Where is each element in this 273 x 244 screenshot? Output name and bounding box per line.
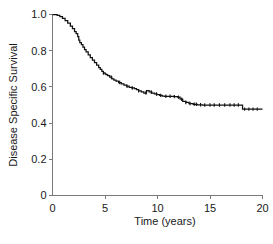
x-tick-label-1: 5: [102, 202, 108, 214]
y-axis-title: Disease Specific Survival: [7, 43, 19, 167]
x-axis-title: Time (years): [134, 215, 195, 227]
censor-tick-marks: [103, 71, 257, 111]
x-tick-label-4: 20: [256, 202, 268, 214]
y-tick-label-0: 0: [40, 189, 46, 201]
y-tick-label-5: 1.0: [31, 8, 46, 20]
y-axis-tick-marks: [49, 15, 53, 196]
x-tick-label-0: 0: [49, 202, 55, 214]
y-axis-tick-labels: 00.20.40.60.81.0: [31, 8, 46, 201]
x-axis-tick-labels: 05101520: [49, 202, 268, 214]
x-tick-label-3: 15: [204, 202, 216, 214]
survival-chart-figure: 00.20.40.60.81.0 05101520 Disease Specif…: [0, 0, 273, 244]
chart-canvas: 00.20.40.60.81.0 05101520 Disease Specif…: [0, 0, 273, 244]
y-tick-label-1: 0.2: [31, 153, 46, 165]
y-tick-label-4: 0.8: [31, 45, 46, 57]
x-tick-label-2: 10: [151, 202, 163, 214]
y-tick-label-2: 0.4: [31, 117, 46, 129]
y-tick-label-3: 0.6: [31, 81, 46, 93]
kaplan-meier-curve: [53, 15, 263, 110]
x-axis-tick-marks: [105, 196, 263, 200]
